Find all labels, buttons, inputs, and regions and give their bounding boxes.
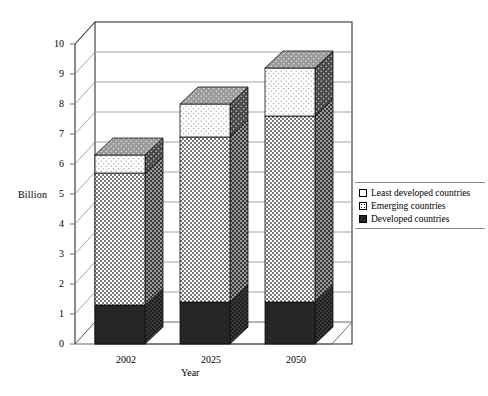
y-tick-label: 4 (42, 219, 64, 229)
y-tick-label: 3 (42, 249, 64, 259)
legend-label-least-developed: Least developed countries (371, 188, 470, 198)
y-tick-label: 0 (42, 339, 64, 349)
bar-2050 (265, 51, 333, 344)
bar-2002-segment-emerging (95, 156, 163, 305)
legend-label-developed: Developed countries (371, 214, 449, 224)
legend-item-developed[interactable]: Developed countries (355, 212, 485, 225)
bar-2025 (180, 87, 248, 344)
y-tick-label: 10 (42, 39, 64, 49)
legend: Least developed countries Emerging count… (355, 182, 485, 229)
x-axis-title: Year (181, 367, 199, 378)
legend-item-least-developed[interactable]: Least developed countries (355, 186, 485, 199)
y-tick-label: 1 (42, 309, 64, 319)
y-tick-label: 2 (42, 279, 64, 289)
legend-swatch-developed-icon (359, 215, 367, 223)
x-tick-label-2002: 2002 (96, 355, 156, 365)
y-tick-label: 6 (42, 159, 64, 169)
stacked-3d-bar-chart: 0 1 2 3 4 5 6 7 8 9 10 2002 2025 2050 Bi… (0, 0, 488, 396)
y-tick-label: 9 (42, 69, 64, 79)
y-axis-title: Billion (18, 189, 47, 200)
y-tick-label: 7 (42, 129, 64, 139)
bar-2025-segment-emerging (180, 120, 248, 302)
legend-item-emerging[interactable]: Emerging countries (355, 199, 485, 212)
legend-label-emerging: Emerging countries (371, 201, 446, 211)
legend-swatch-emerging-icon (359, 202, 367, 210)
bar-2025-segment-least-developed (180, 87, 248, 137)
bar-2050-segment-emerging (265, 99, 333, 302)
bar-2050-segment-least-developed (265, 51, 333, 116)
y-tick-label: 8 (42, 99, 64, 109)
x-tick-label-2025: 2025 (181, 355, 241, 365)
bar-2002 (95, 138, 163, 344)
legend-swatch-least-developed-icon (359, 189, 367, 197)
x-tick-label-2050: 2050 (266, 355, 326, 365)
